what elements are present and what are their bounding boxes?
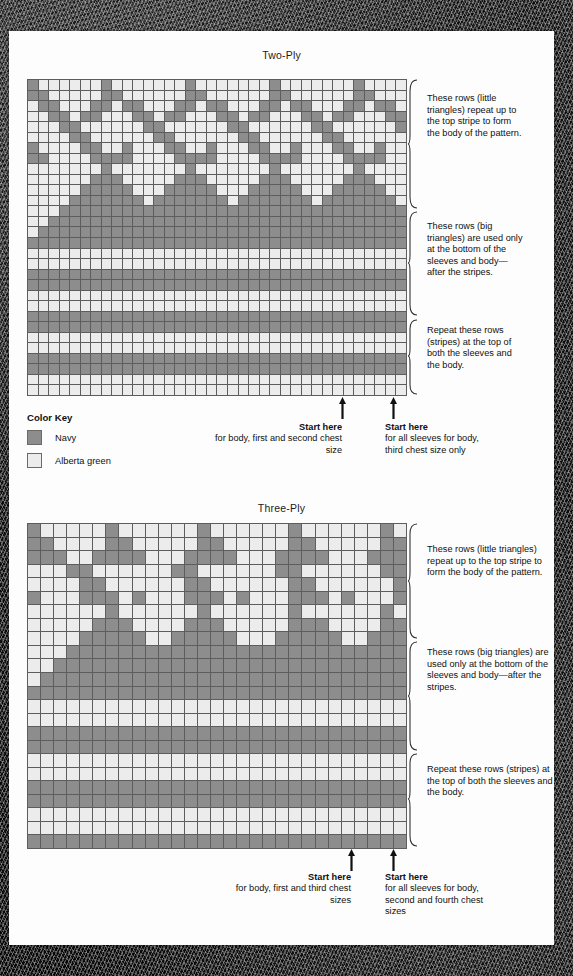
chart-cell [93, 524, 105, 537]
chart-cell [175, 354, 185, 364]
chart-cell [91, 175, 101, 185]
chart-cell [276, 741, 288, 754]
chart-cell [175, 154, 185, 164]
chart-cell [146, 632, 158, 645]
chart-cell [270, 291, 280, 301]
chart-cell [80, 632, 92, 645]
chart-cell [263, 714, 275, 727]
swatch-alberta-green-icon [27, 453, 42, 468]
chart-cell [312, 364, 322, 374]
chart-cell [323, 343, 333, 353]
chart-cell [396, 91, 406, 101]
chart-cell [196, 322, 206, 332]
chart-cell [217, 322, 227, 332]
chart-cell [186, 206, 196, 216]
chart-cell [250, 605, 262, 618]
chart-cell [28, 673, 40, 686]
chart-cell [80, 673, 92, 686]
chart-cell [302, 687, 314, 700]
chart-cell [276, 727, 288, 740]
chart-cell [249, 312, 259, 322]
chart-cell [329, 727, 341, 740]
chart-cell [185, 795, 197, 808]
chart-cell [133, 646, 145, 659]
chart-cell [260, 80, 270, 90]
chart-cell [394, 768, 406, 781]
chart-cell [224, 700, 236, 713]
chart-cell [333, 154, 343, 164]
chart-cell [291, 112, 301, 122]
chart-cell [323, 122, 333, 132]
chart-cell [159, 659, 171, 672]
chart-cell [144, 91, 154, 101]
chart-cell [175, 217, 185, 227]
chart-cell [270, 175, 280, 185]
chart-cell [224, 673, 236, 686]
chart-cell [365, 249, 375, 259]
chart-cell [144, 80, 154, 90]
chart-cell [270, 206, 280, 216]
chart-cell [106, 781, 118, 794]
chart-cell [172, 524, 184, 537]
chart-cell [60, 143, 70, 153]
color-key-item-navy: Navy [27, 430, 111, 445]
chart-cell [67, 605, 79, 618]
chart-cell [237, 768, 249, 781]
chart-cell [172, 741, 184, 754]
chart-cell [175, 175, 185, 185]
chart-cell [396, 154, 406, 164]
chart-cell [28, 343, 38, 353]
chart-cell [224, 741, 236, 754]
chart-cell [344, 196, 354, 206]
chart-cell [60, 206, 70, 216]
chart-cell [302, 196, 312, 206]
chart-cell [67, 700, 79, 713]
chart-cell [207, 312, 217, 322]
chart-cell [291, 280, 301, 290]
chart-cell [316, 646, 328, 659]
chart-cell [237, 714, 249, 727]
chart-cell [80, 714, 92, 727]
chart-cell [93, 605, 105, 618]
chart-cell [289, 795, 301, 808]
chart-cell [172, 619, 184, 632]
chart-cell [224, 754, 236, 767]
chart-cell [172, 659, 184, 672]
chart-cell [49, 343, 59, 353]
chart-cell [54, 632, 66, 645]
chart-cell [159, 592, 171, 605]
chart-cell [159, 565, 171, 578]
chart-cell [312, 196, 322, 206]
chart-cell [159, 727, 171, 740]
chart-cell [54, 538, 66, 551]
chart-cell [175, 133, 185, 143]
chart-cell [217, 249, 227, 259]
chart-cell [49, 91, 59, 101]
chart-cell [28, 291, 38, 301]
chart-cell [329, 781, 341, 794]
chart-cell [185, 808, 197, 821]
chart-cell [144, 238, 154, 248]
chart-cell [146, 578, 158, 591]
chart-cell [60, 80, 70, 90]
chart-cell [70, 312, 80, 322]
chart-cell [106, 592, 118, 605]
chart-cell [250, 700, 262, 713]
chart-cell [196, 312, 206, 322]
chart-cell [133, 795, 145, 808]
chart-cell [217, 122, 227, 132]
chart-cell [39, 385, 49, 395]
chart-cell [165, 217, 175, 227]
chart-cell [123, 122, 133, 132]
chart-cell [106, 754, 118, 767]
chart-cell [386, 217, 396, 227]
chart-cell [154, 112, 164, 122]
chart-cell [365, 280, 375, 290]
chart-cell [368, 592, 380, 605]
chart-cell [329, 808, 341, 821]
chart-cell [41, 565, 53, 578]
chart-cell [302, 270, 312, 280]
chart-cell [54, 795, 66, 808]
start-here-right-three-ply-title: Start here [385, 872, 428, 882]
chart-cell [381, 714, 393, 727]
